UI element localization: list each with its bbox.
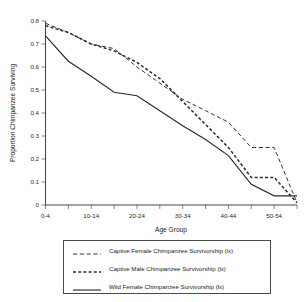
legend-swatch-solid bbox=[73, 281, 101, 291]
y-tick-label: 0.5 bbox=[30, 86, 39, 93]
x-axis: 0-410-1420-2430-3440-4450-54 bbox=[41, 205, 297, 219]
y-tick-label: 0.3 bbox=[30, 132, 39, 139]
y-tick-label: 0.8 bbox=[30, 17, 39, 24]
legend-swatch-dashed-thin bbox=[73, 245, 101, 255]
x-tick-label: 20-24 bbox=[129, 212, 145, 219]
x-tick-label: 40-44 bbox=[220, 212, 236, 219]
x-tick-label: 10-14 bbox=[83, 212, 99, 219]
legend-label: Wild Female Chimpanzee Survivorship (lx) bbox=[109, 283, 224, 290]
x-tick-label: 30-34 bbox=[175, 212, 191, 219]
y-tick-label: 0 bbox=[36, 201, 40, 208]
x-tick-label: 50-54 bbox=[266, 212, 282, 219]
legend-item: Captive Female Chimpanzee Survivorship (… bbox=[64, 241, 270, 259]
legend-label: Captive Female Chimpanzee Survivorship (… bbox=[109, 247, 233, 254]
y-tick-label: 0.4 bbox=[30, 109, 39, 116]
x-axis-title: Age Group bbox=[155, 226, 187, 234]
series-lines bbox=[46, 23, 298, 202]
y-tick-label: 0.7 bbox=[30, 40, 39, 47]
x-tick-label: 0-4 bbox=[41, 212, 51, 219]
series-line-dashed-thin bbox=[46, 23, 298, 202]
legend-item: Wild Female Chimpanzee Survivorship (lx) bbox=[64, 277, 270, 295]
legend-item: Captive Male Chimpanzee Survivorship (lx… bbox=[64, 259, 270, 277]
series-line-solid bbox=[46, 36, 298, 196]
series-line-dashed-thick bbox=[46, 26, 298, 203]
legend-swatch-dashed-thick bbox=[73, 263, 101, 273]
y-tick-label: 0.1 bbox=[30, 178, 39, 185]
chart-legend: Captive Female Chimpanzee Survivorship (… bbox=[63, 240, 271, 294]
y-axis-title: Proportion Chimpanzee Surviving bbox=[9, 64, 17, 163]
y-tick-label: 0.6 bbox=[30, 63, 39, 70]
y-tick-label: 0.2 bbox=[30, 155, 39, 162]
legend-label: Captive Male Chimpanzee Survivorship (lx… bbox=[109, 265, 226, 272]
chart-figure: 00.10.20.30.40.50.60.70.8 0-410-1420-243… bbox=[0, 0, 308, 302]
y-axis: 00.10.20.30.40.50.60.70.8 bbox=[30, 17, 45, 208]
